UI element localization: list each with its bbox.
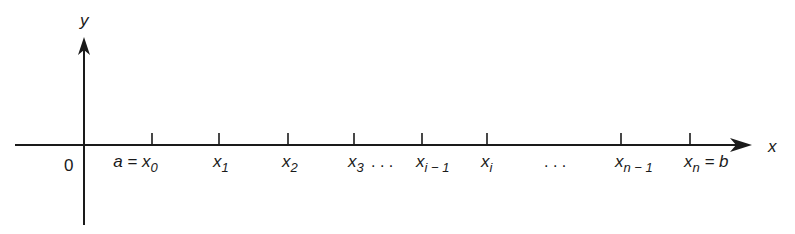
tick-label: xi bbox=[480, 152, 494, 175]
ellipsis: . . . bbox=[371, 153, 393, 170]
diagram-canvas: y x 0 a = x0x1x2x3xi − 1xixn − 1xn = b .… bbox=[0, 0, 795, 234]
y-axis-label: y bbox=[79, 11, 90, 30]
tick-label: x1 bbox=[212, 152, 229, 175]
tick-marks bbox=[152, 133, 690, 145]
partition-diagram: y x 0 a = x0x1x2x3xi − 1xixn − 1xn = b .… bbox=[0, 0, 795, 234]
tick-label: xi − 1 bbox=[415, 152, 449, 175]
tick-label: xn − 1 bbox=[614, 152, 653, 175]
tick-label: a = x0 bbox=[113, 152, 158, 175]
x-axis-label: x bbox=[767, 137, 777, 156]
origin-label: 0 bbox=[64, 156, 73, 175]
ellipsis: . . . bbox=[544, 153, 566, 170]
tick-label: xn = b bbox=[683, 152, 729, 175]
tick-label: x2 bbox=[281, 152, 299, 175]
ellipses: . . .. . . bbox=[371, 153, 566, 170]
tick-labels: a = x0x1x2x3xi − 1xixn − 1xn = b bbox=[113, 152, 728, 175]
tick-label: x3 bbox=[347, 152, 365, 175]
